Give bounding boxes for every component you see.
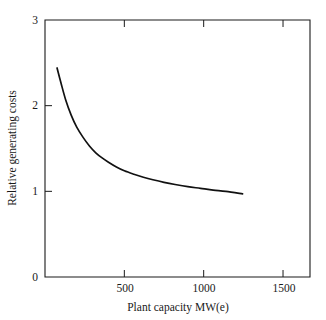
y-tick-labels: 0 1 2 3 bbox=[32, 14, 38, 283]
x-axis-ticks bbox=[124, 20, 283, 277]
chart-canvas: 0 1 2 3 500 1000 1500 Plant capacity MW(… bbox=[0, 0, 326, 320]
plot-frame bbox=[45, 20, 310, 277]
y-tick-label-0: 0 bbox=[32, 271, 38, 283]
y-tick-label-1: 1 bbox=[32, 185, 38, 197]
y-tick-label-2: 2 bbox=[32, 99, 38, 111]
series-line-relative-generating-costs bbox=[57, 68, 243, 194]
chart-figure: 0 1 2 3 500 1000 1500 Plant capacity MW(… bbox=[0, 0, 326, 320]
x-tick-label-1500: 1500 bbox=[273, 282, 296, 294]
y-tick-label-3: 3 bbox=[32, 14, 38, 26]
y-axis-title: Relative generating costs bbox=[6, 90, 19, 206]
x-tick-labels: 500 1000 1500 bbox=[116, 282, 295, 294]
data-series-group bbox=[57, 68, 243, 194]
y-axis-ticks bbox=[45, 106, 52, 192]
x-tick-label-500: 500 bbox=[116, 282, 134, 294]
x-axis-title: Plant capacity MW(e) bbox=[127, 301, 229, 314]
x-tick-label-1000: 1000 bbox=[193, 282, 216, 294]
